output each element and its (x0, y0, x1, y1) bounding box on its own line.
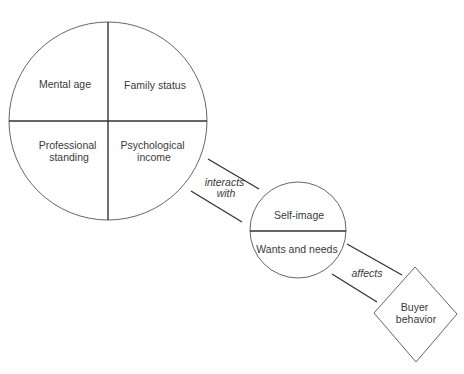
quadrant-mental-age: Mental age (39, 78, 91, 90)
self-image-label: Self-image (274, 209, 324, 221)
buyer-behavior-label: Buyer behavior (396, 301, 437, 325)
connector-1-label: interacts with (205, 176, 248, 199)
quadrant-family-status: Family status (124, 79, 186, 91)
small-circle (250, 182, 346, 278)
connector-interacts-with: interacts with (191, 159, 259, 222)
connector-2-label: affects (352, 267, 384, 279)
diagram-canvas: Mental age Family status Professional st… (0, 0, 464, 374)
quadrant-psychological-income: Psychological income (120, 139, 187, 163)
diamond-group: Buyer behavior (374, 267, 457, 362)
quadrant-professional-standing: Professional standing (39, 139, 100, 163)
big-circle-group: Mental age Family status Professional st… (9, 22, 207, 220)
small-circle-group: Self-image Wants and needs (250, 182, 346, 278)
wants-and-needs-label: Wants and needs (256, 243, 337, 255)
